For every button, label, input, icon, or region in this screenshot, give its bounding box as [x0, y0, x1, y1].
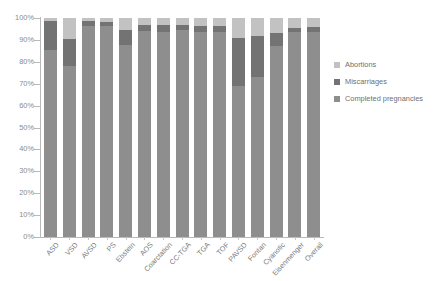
legend-item[interactable]: Completed pregnancies: [334, 91, 442, 106]
bar-segment: [232, 86, 245, 237]
bar: [288, 18, 301, 237]
bar-segment: [138, 31, 151, 237]
bar: [157, 18, 170, 237]
bar-segment: [82, 21, 95, 25]
legend-item[interactable]: Abortions: [334, 57, 442, 72]
bar-segment: [157, 32, 170, 237]
legend-item[interactable]: Miscarriages: [334, 74, 442, 89]
x-axis-label: TGA: [196, 241, 212, 257]
bar-segment: [138, 18, 151, 25]
x-axis-tick: [163, 237, 164, 240]
legend-swatch-icon: [334, 79, 340, 85]
bar-segment: [213, 26, 226, 33]
y-axis-tick: [34, 18, 40, 19]
bar-segment: [119, 45, 132, 237]
bar-segment: [82, 26, 95, 237]
bar-segment: [138, 25, 151, 32]
bar: [270, 18, 283, 237]
x-axis-tick: [107, 237, 108, 240]
bar-segment: [63, 18, 76, 39]
x-axis-tick: [144, 237, 145, 240]
bar-segment: [270, 33, 283, 46]
y-axis-label: 50%: [0, 124, 34, 132]
bar-segment: [44, 18, 57, 21]
bar-segment: [100, 22, 113, 25]
bar-segment: [157, 18, 170, 25]
legend-label: Miscarriages: [345, 77, 387, 86]
x-axis-label: Overall: [303, 241, 324, 263]
x-axis-tick: [238, 237, 239, 240]
bar-segment: [270, 18, 283, 33]
bar-segment: [119, 30, 132, 45]
x-axis-tick: [50, 237, 51, 240]
bar-segment: [100, 18, 113, 22]
x-axis-tick: [69, 237, 70, 240]
x-axis-label: AVSD: [80, 241, 99, 260]
y-axis-tick: [34, 149, 40, 150]
bar: [82, 18, 95, 237]
y-axis-tick: [34, 237, 40, 238]
y-axis-tick: [34, 215, 40, 216]
bar-segment: [288, 32, 301, 237]
bar-segment: [82, 18, 95, 21]
bar: [100, 18, 113, 237]
y-axis-tick: [34, 128, 40, 129]
bar-segment: [288, 28, 301, 32]
bar-segment: [63, 39, 76, 66]
x-axis-tick: [201, 237, 202, 240]
legend-label: Abortions: [345, 60, 376, 69]
x-axis-tick: [276, 237, 277, 240]
x-axis-tick: [257, 237, 258, 240]
bar-segment: [213, 32, 226, 237]
y-axis-tick: [34, 106, 40, 107]
y-axis-label: 20%: [0, 189, 34, 197]
y-axis-label: 100%: [0, 14, 34, 22]
bar-segment: [63, 66, 76, 237]
bar: [307, 18, 320, 237]
bar-segment: [251, 36, 264, 78]
y-axis-label: 60%: [0, 102, 34, 110]
bar: [63, 18, 76, 237]
y-axis-tick: [34, 62, 40, 63]
legend-swatch-icon: [334, 96, 340, 102]
y-axis-label: 40%: [0, 145, 34, 153]
bar-segment: [176, 18, 189, 25]
bar: [44, 18, 57, 237]
bar-segment: [307, 27, 320, 32]
bar-segment: [213, 18, 226, 26]
y-axis-label: 30%: [0, 167, 34, 175]
bar: [213, 18, 226, 237]
legend-label: Completed pregnancies: [345, 94, 423, 103]
bar-segment: [44, 21, 57, 49]
plot-area: [41, 18, 323, 237]
y-axis-tick: [34, 40, 40, 41]
bar: [176, 18, 189, 237]
y-axis-tick: [34, 84, 40, 85]
y-axis-tick: [34, 193, 40, 194]
bar-segment: [44, 50, 57, 237]
bar-segment: [307, 32, 320, 237]
bar-segment: [307, 18, 320, 27]
x-axis-label: PAVSD: [227, 241, 249, 264]
bar-segment: [270, 46, 283, 237]
y-axis-label: 10%: [0, 211, 34, 219]
bar-segment: [232, 38, 245, 86]
chart-legend: AbortionsMiscarriagesCompleted pregnanci…: [334, 57, 442, 108]
bar: [251, 18, 264, 237]
y-axis-label: 90%: [0, 36, 34, 44]
bar-segment: [194, 18, 207, 26]
bar: [138, 18, 151, 237]
bar-segment: [100, 26, 113, 237]
bar-segment: [176, 25, 189, 30]
x-axis-label: PS: [105, 241, 117, 253]
stacked-bar-chart: 100%90%80%70%60%50%40%30%20%10%0% ASDVSD…: [0, 0, 445, 281]
x-axis-tick: [314, 237, 315, 240]
y-axis-label: 0%: [0, 233, 34, 241]
x-axis-label: VSD: [64, 241, 80, 257]
legend-swatch-icon: [334, 62, 340, 68]
y-axis-label: 80%: [0, 58, 34, 66]
x-axis-tick: [126, 237, 127, 240]
x-axis-tick: [182, 237, 183, 240]
x-axis-label: ASD: [45, 241, 61, 257]
bar-segment: [232, 18, 245, 38]
